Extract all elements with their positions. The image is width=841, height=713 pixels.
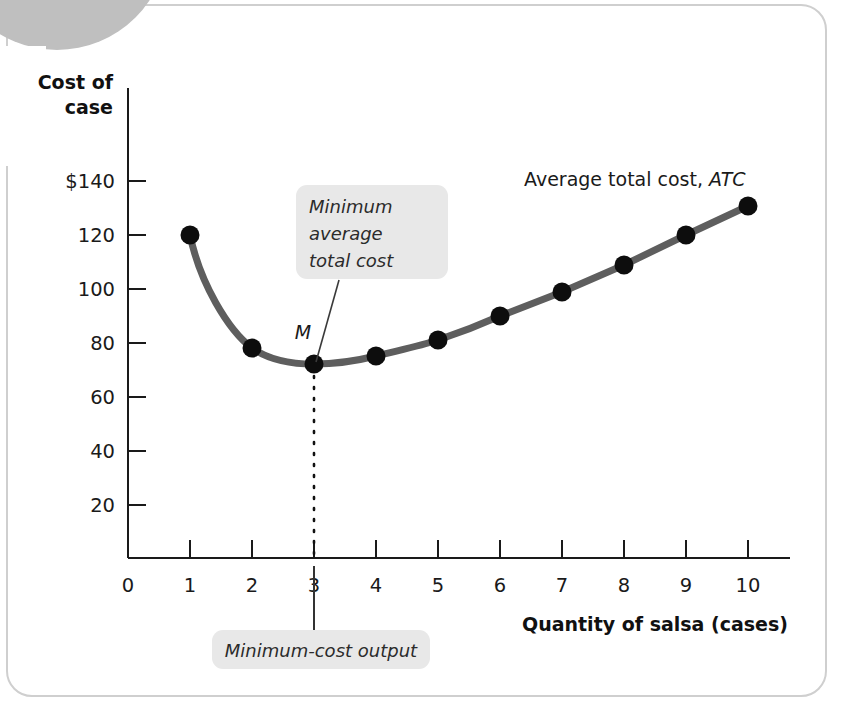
x-tick-label-7: 7 — [556, 574, 568, 597]
minimum-avg-cost-leader-line — [316, 280, 339, 362]
x-axis-title: Quantity of salsa (cases) — [522, 613, 788, 635]
y-tick-label-140: $140 — [65, 170, 115, 193]
y-axis-title-line1: Cost of — [38, 71, 114, 93]
minimum-avg-cost-line2: average — [309, 223, 383, 244]
y-axis-title-line2: case — [65, 96, 113, 118]
y-tick-label-120: 120 — [78, 224, 115, 247]
x-tick-label-0: 0 — [122, 574, 134, 597]
data-point-2 — [243, 339, 262, 358]
series-label-atc: Average total cost, ATC — [524, 168, 746, 190]
minimum-avg-cost-line1: Minimum — [309, 196, 392, 217]
data-point-3-m — [305, 355, 324, 374]
series-label-abbrev: ATC — [707, 168, 746, 190]
minimum-avg-cost-line3: total cost — [309, 250, 394, 271]
data-point-5 — [429, 331, 448, 350]
minimum-cost-output-label: Minimum-cost output — [225, 640, 418, 661]
x-tick-label-10: 10 — [736, 574, 761, 597]
data-point-10 — [739, 197, 758, 216]
data-point-6 — [491, 307, 510, 326]
y-tick-label-20: 20 — [90, 494, 115, 517]
x-tick-label-6: 6 — [494, 574, 506, 597]
y-tick-label-100: 100 — [78, 278, 115, 301]
data-point-1 — [181, 226, 200, 245]
x-tick-label-8: 8 — [618, 574, 630, 597]
y-tick-label-80: 80 — [90, 332, 115, 355]
atc-curve — [190, 206, 748, 364]
x-tick-label-2: 2 — [246, 574, 258, 597]
series-label-text: Average total cost, — [524, 168, 709, 190]
y-tick-label-60: 60 — [90, 386, 115, 409]
x-tick-label-1: 1 — [184, 574, 196, 597]
x-tick-label-9: 9 — [680, 574, 692, 597]
point-m-label: M — [295, 321, 311, 343]
y-tick-label-40: 40 — [90, 440, 115, 463]
data-point-8 — [615, 256, 634, 275]
cost-curve-chart: $140 120 100 80 60 40 20 Cost of case 0 … — [0, 0, 841, 713]
data-point-7 — [553, 283, 572, 302]
data-point-9 — [677, 226, 696, 245]
figure-root: $140 120 100 80 60 40 20 Cost of case 0 … — [0, 0, 841, 713]
x-tick-label-4: 4 — [370, 574, 382, 597]
data-point-4 — [367, 347, 386, 366]
x-tick-label-5: 5 — [432, 574, 444, 597]
